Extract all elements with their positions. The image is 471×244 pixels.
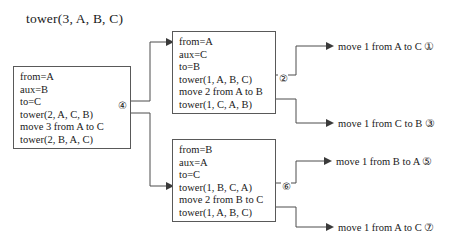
move-label-1: move 1 from A to C ① xyxy=(338,41,434,53)
box-line: from=A xyxy=(179,36,273,49)
box-line: move 2 from B to C xyxy=(179,194,273,207)
box-line: to=B xyxy=(179,61,273,74)
box-line: tower(1, A, B, C) xyxy=(179,74,273,87)
step-marker-root-move: ④ xyxy=(117,101,127,111)
move-label-7: move 1 from A to C ⑦ xyxy=(338,222,434,234)
box-line: aux=C xyxy=(179,49,273,62)
step-marker-left-move: ② xyxy=(278,74,288,84)
box-line: to=C xyxy=(179,169,273,182)
box-line: to=C xyxy=(20,96,128,109)
root-call-box: from=A aux=B to=C tower(2, A, C, B) move… xyxy=(13,66,131,149)
right-subcall-box: from=B aux=A to=C tower(1, B, C, A) move… xyxy=(172,139,276,222)
step-marker-right-move: ⑥ xyxy=(281,182,291,192)
box-line: from=B xyxy=(179,144,273,157)
box-line: tower(1, B, C, A) xyxy=(179,182,273,195)
box-line: tower(2, A, C, B) xyxy=(20,109,128,122)
move-label-3: move 1 from C to B ③ xyxy=(338,118,435,130)
box-line: tower(1, A, B, C) xyxy=(179,207,273,220)
move-label-5: move 1 from B to A ⑤ xyxy=(336,156,432,168)
box-line: from=A xyxy=(20,71,128,84)
box-line: move 2 from A to B xyxy=(179,86,273,99)
diagram-canvas: tower(3, A, B, C) from=A aux=B to=C towe… xyxy=(0,0,471,244)
diagram-title: tower(3, A, B, C) xyxy=(26,11,123,27)
box-line: tower(1, C, A, B) xyxy=(179,99,273,112)
box-line: aux=B xyxy=(20,84,128,97)
box-line: move 3 from A to C xyxy=(20,121,128,134)
left-subcall-box: from=A aux=C to=B tower(1, A, B, C) move… xyxy=(172,31,276,114)
box-line: tower(2, B, A, C) xyxy=(20,134,128,147)
box-line: aux=A xyxy=(179,157,273,170)
